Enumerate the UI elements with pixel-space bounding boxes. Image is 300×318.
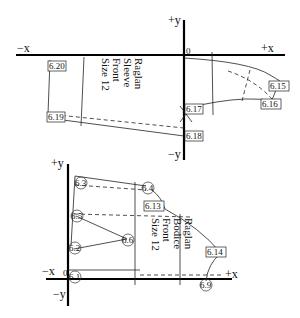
pattern-diagram-canvas: +y −y +x −x 0 Raglan Sleeve Front Size 1…: [0, 0, 300, 318]
bottom-point-6-14: 6.14: [206, 247, 226, 257]
bottom-pos-x-label: +x: [225, 267, 238, 281]
svg-text:6.17: 6.17: [186, 104, 202, 114]
top-dashed-curve: [228, 71, 272, 99]
svg-text:Size 12: Size 12: [100, 58, 112, 91]
svg-text:6.3: 6.3: [75, 178, 87, 188]
top-point-6-16: 6.16: [261, 99, 281, 109]
bottom-neg-y-label: −y: [53, 287, 66, 301]
svg-text:6.14: 6.14: [207, 247, 223, 257]
svg-text:6.4: 6.4: [142, 183, 154, 193]
top-neg-x-label: −x: [17, 41, 30, 55]
bottom-point-6-1: 6.1: [69, 271, 81, 283]
svg-text:6.15: 6.15: [270, 81, 286, 91]
top-right-vertical: [212, 52, 213, 115]
svg-text:6.20: 6.20: [49, 61, 65, 71]
top-diagram: +y −y +x −x 0 Raglan Sleeve Front Size 1…: [16, 13, 289, 161]
bottom-dart-lower: [74, 239, 127, 249]
top-inner-vertical: [81, 57, 84, 126]
top-neg-y-label: −y: [168, 147, 181, 161]
svg-text:6.13: 6.13: [145, 201, 161, 211]
bottom-point-6-5: 6.5: [71, 210, 83, 222]
top-point-6-18: 6.18: [185, 131, 203, 141]
svg-text:6.16: 6.16: [262, 99, 278, 109]
bottom-neg-x-label: −x: [42, 264, 55, 278]
bottom-point-6-6: 6.6: [122, 234, 134, 246]
top-dashed-vertical: [242, 70, 250, 101]
bottom-point-6-13: 6.13: [144, 201, 164, 211]
svg-text:6.5: 6.5: [71, 211, 83, 221]
top-hem-line: [48, 118, 184, 136]
svg-text:6.19: 6.19: [48, 112, 64, 122]
svg-text:6.18: 6.18: [186, 131, 202, 141]
bottom-diagram: +y −y +x −x 0 Raglan Bodice Front Size 1…: [42, 156, 238, 306]
bottom-dashed-middle: [74, 214, 190, 217]
bottom-origin-label: 0: [63, 268, 68, 278]
svg-text:6.1: 6.1: [69, 272, 80, 282]
svg-text:6.6: 6.6: [122, 235, 134, 245]
bottom-point-6-3: 6.3: [75, 177, 87, 189]
svg-text:Size 12: Size 12: [150, 218, 162, 251]
bottom-title: Raglan Bodice Front Size 12: [150, 218, 195, 251]
bottom-point-6-2: 6.2: [69, 242, 81, 254]
top-pos-x-label: +x: [261, 41, 274, 55]
bottom-pos-y-label: +y: [51, 156, 64, 170]
top-point-6-17: 6.17: [185, 104, 203, 114]
top-point-6-19: 6.19: [47, 112, 65, 122]
svg-text:6.9: 6.9: [200, 280, 212, 290]
svg-text:6.2: 6.2: [69, 243, 80, 253]
top-title: Raglan Sleeve Front Size 12: [100, 58, 145, 91]
bottom-point-6-4: 6.4: [142, 182, 154, 194]
top-point-6-15: 6.15: [269, 81, 289, 91]
bottom-side-curve: [206, 254, 220, 281]
top-pos-y-label: +y: [168, 13, 181, 27]
top-point-6-20: 6.20: [48, 61, 66, 71]
bottom-point-6-9: 6.9: [200, 279, 212, 291]
top-origin-label: 0: [186, 46, 191, 56]
bottom-dart-upper: [76, 216, 127, 239]
